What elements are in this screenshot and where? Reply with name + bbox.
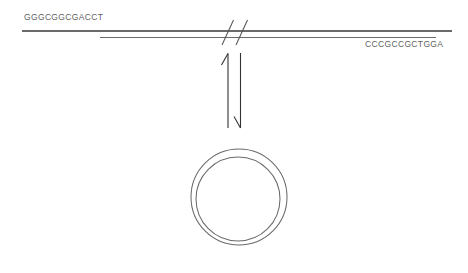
- right-sequence-label: CCCGCCGCTGGA: [365, 39, 443, 49]
- left-sequence-label: GGGCGGCGACCT: [24, 12, 103, 22]
- up-arrow-icon: [222, 54, 229, 129]
- plasmid-circle-group: [191, 149, 287, 245]
- reversible-arrows-group: [222, 53, 241, 128]
- double-slash-break-icon: [222, 20, 248, 45]
- down-arrow-icon: [234, 53, 241, 128]
- plasmid-inner-strand: [196, 157, 280, 241]
- figure-canvas: GGGCGGCGACCT CCCGCCGCTGGA: [0, 0, 468, 273]
- plasmid-outer-strand: [191, 149, 287, 245]
